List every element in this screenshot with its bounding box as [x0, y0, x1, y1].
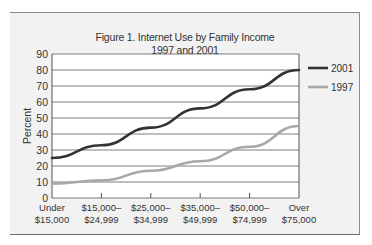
x-tick-label: $24,999: [84, 214, 118, 225]
y-tick-label: 90: [36, 48, 48, 60]
line-chart: 0102030405060708090Under$15,000$15,000–$…: [0, 0, 372, 245]
x-tick-label: $34,999: [134, 214, 168, 225]
y-tick-label: 10: [36, 176, 48, 188]
x-tick-label: $49,999: [183, 214, 217, 225]
y-tick-label: 30: [36, 144, 48, 156]
y-axis-label: Percent: [21, 108, 33, 144]
y-tick-label: 50: [36, 112, 48, 124]
x-tick-label: $75,000: [282, 214, 316, 225]
y-tick-label: 80: [36, 64, 48, 76]
y-tick-label: 70: [36, 80, 48, 92]
x-tick-label: $50,000–: [230, 202, 270, 213]
x-tick-label: $74,999: [232, 214, 266, 225]
legend-label-1997: 1997: [331, 82, 354, 93]
x-tick-label: $25,000–: [131, 202, 171, 213]
plot-area: [52, 54, 299, 198]
x-tick-label: $15,000–: [82, 202, 122, 213]
x-tick-label: Over: [289, 202, 310, 213]
y-tick-label: 20: [36, 160, 48, 172]
legend-label-2001: 2001: [331, 63, 354, 74]
x-tick-label: Under: [39, 202, 65, 213]
y-tick-label: 60: [36, 96, 48, 108]
x-tick-label: $15,000: [35, 214, 69, 225]
x-tick-label: $35,000–: [180, 202, 220, 213]
y-tick-label: 40: [36, 128, 48, 140]
